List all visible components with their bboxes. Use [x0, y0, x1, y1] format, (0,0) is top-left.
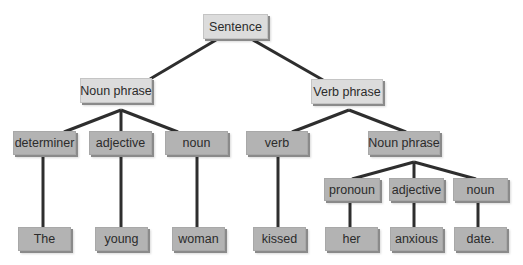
edge-np2-n2: [414, 162, 476, 179]
node-n1: noun: [165, 131, 228, 155]
node-w1: The: [18, 227, 71, 251]
node-adj1: adjective: [89, 131, 152, 155]
node-w2: young: [95, 227, 148, 251]
node-np1: Noun phrase: [80, 78, 152, 103]
node-w6: anxious: [390, 227, 443, 251]
node-w4: kissed: [253, 227, 306, 251]
edge-vp-v: [292, 110, 349, 132]
edge-np2-pro: [352, 162, 414, 179]
node-w7: date.: [454, 227, 507, 251]
node-w3: woman: [172, 227, 225, 251]
edge-np1-n1: [121, 110, 178, 132]
node-adj2: adjective: [389, 178, 444, 201]
node-w5: her: [325, 227, 378, 251]
node-vp: Verb phrase: [311, 79, 383, 104]
edge-np1-det: [64, 110, 121, 132]
node-det: determiner: [13, 131, 76, 155]
edge-s-vp: [253, 40, 323, 80]
node-n2: noun: [453, 178, 508, 201]
edge-s-np1: [150, 40, 216, 79]
node-np2: Noun phrase: [368, 131, 440, 155]
node-pro: pronoun: [324, 178, 380, 201]
node-v: verb: [246, 131, 308, 155]
node-s: Sentence: [203, 14, 268, 39]
edge-vp-np2: [349, 110, 406, 132]
